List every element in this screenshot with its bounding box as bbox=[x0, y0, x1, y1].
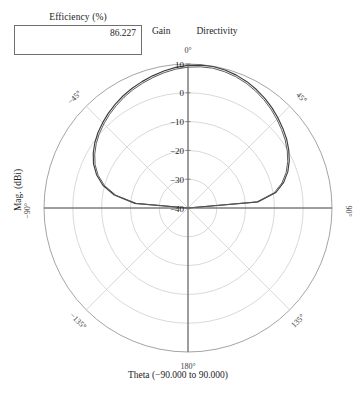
x-axis-title: Theta (−90.000 to 90.000) bbox=[0, 370, 356, 380]
angular-tick-label: −90° bbox=[23, 203, 32, 219]
angular-tick-label: 0° bbox=[184, 46, 191, 55]
angular-tick-label: 45° bbox=[294, 90, 308, 104]
radial-tick-label: −10 bbox=[170, 117, 185, 127]
polar-plot: 100−10−20−30−40 0°45°90°135°180°−135°−90… bbox=[0, 0, 356, 399]
radial-tick-label: −20 bbox=[170, 146, 185, 156]
y-axis-title: Mag. (dBi) bbox=[13, 150, 23, 230]
radial-tick-label: −40 bbox=[170, 204, 185, 214]
radial-tick-label: 10 bbox=[175, 60, 185, 70]
radial-tick-label: 0 bbox=[180, 88, 185, 98]
radial-tick-labels: 100−10−20−30−40 bbox=[170, 60, 185, 214]
angular-tick-label: 90° bbox=[344, 205, 353, 216]
angular-tick-label: −45° bbox=[66, 89, 83, 106]
angular-tick-label: 135° bbox=[289, 312, 306, 329]
radial-tick-label: −30 bbox=[170, 175, 185, 185]
angular-tick-label: −135° bbox=[68, 311, 88, 331]
polar-chart-svg: 100−10−20−30−40 0°45°90°135°180°−135°−90… bbox=[0, 0, 356, 399]
